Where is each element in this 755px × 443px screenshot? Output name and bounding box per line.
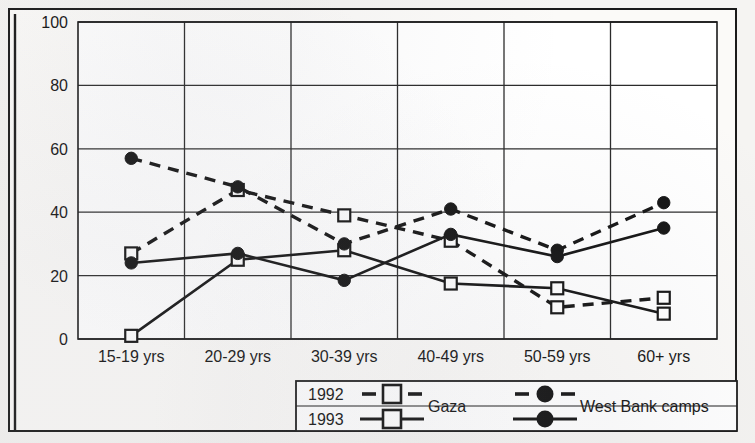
data-point-2-3 xyxy=(445,203,457,215)
legend-label-1992: 1992 xyxy=(308,386,344,403)
legend-sample-1992-gaza-marker xyxy=(383,385,401,403)
data-point-3-1 xyxy=(232,247,244,259)
x-tick-label-1: 20-29 yrs xyxy=(204,348,271,365)
x-tick-label-0: 15-19 yrs xyxy=(98,348,165,365)
x-tick-label-4: 50-59 yrs xyxy=(524,348,591,365)
data-point-3-3 xyxy=(445,228,457,240)
y-tick-label-60: 60 xyxy=(50,141,68,158)
x-tick-labels: 15-19 yrs20-29 yrs30-39 yrs40-49 yrs50-5… xyxy=(98,348,690,365)
data-point-3-0 xyxy=(125,257,137,269)
data-point-3-5 xyxy=(658,222,670,234)
legend-label-1993: 1993 xyxy=(308,411,344,428)
legend-sample-1993-gaza-marker xyxy=(383,410,401,428)
line-chart: 100806040200 15-19 yrs20-29 yrs30-39 yrs… xyxy=(0,0,755,443)
data-point-3-2 xyxy=(338,274,350,286)
legend-sample-1993-west-bank-marker xyxy=(537,411,554,428)
data-point-0-2 xyxy=(338,209,350,221)
x-tick-label-5: 60+ yrs xyxy=(637,348,690,365)
data-point-2-2 xyxy=(338,238,350,250)
data-point-1-3 xyxy=(445,278,457,290)
data-point-0-5 xyxy=(658,292,670,304)
figure-root: 100806040200 15-19 yrs20-29 yrs30-39 yrs… xyxy=(0,0,755,443)
data-point-2-5 xyxy=(658,196,670,208)
y-tick-label-40: 40 xyxy=(50,204,68,221)
y-tick-labels: 100806040200 xyxy=(41,14,68,348)
data-point-1-4 xyxy=(551,282,563,294)
y-tick-label-80: 80 xyxy=(50,77,68,94)
legend-group-west-bank-camps: West Bank camps xyxy=(580,398,709,415)
data-point-1-5 xyxy=(658,308,670,320)
y-tick-label-20: 20 xyxy=(50,268,68,285)
y-tick-label-100: 100 xyxy=(41,14,68,31)
data-point-0-4 xyxy=(551,301,563,313)
x-tick-label-3: 40-49 yrs xyxy=(417,348,484,365)
y-tick-label-0: 0 xyxy=(59,331,68,348)
data-point-2-0 xyxy=(125,152,137,164)
legend-group-gaza: Gaza xyxy=(428,398,466,415)
chart-legend: 1992 1993 Gaza West Bank camps xyxy=(296,381,737,431)
data-point-3-4 xyxy=(551,250,563,262)
data-point-2-1 xyxy=(232,181,244,193)
data-point-1-0 xyxy=(125,330,137,342)
legend-sample-1992-west-bank-marker xyxy=(537,386,554,403)
x-tick-label-2: 30-39 yrs xyxy=(311,348,378,365)
